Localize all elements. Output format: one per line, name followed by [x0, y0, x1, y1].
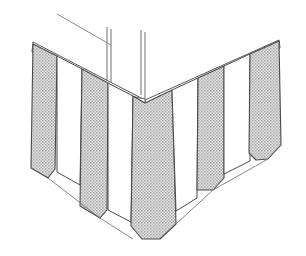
- panel-2-white: [57, 56, 82, 185]
- panel-4-white: [108, 83, 133, 222]
- corner-valance-figure: [0, 0, 306, 256]
- panel-8-white: [224, 54, 250, 174]
- leader-line: [57, 14, 111, 45]
- hem-line-left-lower: [100, 218, 133, 239]
- center-panel-group: [131, 90, 176, 239]
- panel-7-gray: [197, 66, 224, 190]
- right-wing-panels: [172, 41, 281, 211]
- panel-9-gray: [249, 41, 281, 160]
- illustration-canvas: [0, 0, 306, 256]
- left-wing-panels: [31, 44, 133, 222]
- panel-5-gray-corner: [131, 90, 176, 239]
- panel-3-gray: [80, 69, 108, 218]
- panel-6-white: [172, 78, 198, 211]
- panel-1-gray: [31, 44, 57, 178]
